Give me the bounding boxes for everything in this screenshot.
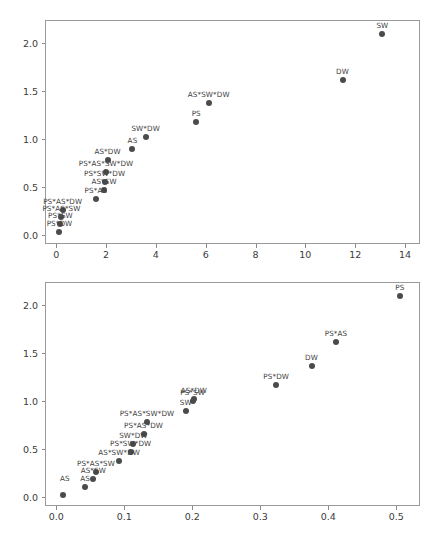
x-tick-mark bbox=[396, 506, 397, 510]
data-point-label: PS bbox=[192, 110, 201, 118]
x-tick-mark bbox=[156, 244, 157, 248]
data-point-label: SW bbox=[376, 22, 388, 30]
x-tick-label: 0.1 bbox=[117, 511, 132, 522]
data-point-label: DW bbox=[336, 68, 349, 76]
x-tick-mark bbox=[305, 244, 306, 248]
data-point-label: PS*DW bbox=[47, 220, 73, 228]
x-tick-label: 14 bbox=[399, 249, 411, 260]
x-tick-label: 6 bbox=[203, 249, 209, 260]
data-point-label: PS*SW bbox=[180, 389, 205, 397]
x-tick-mark bbox=[56, 244, 57, 248]
data-point bbox=[309, 363, 315, 369]
y-tick-label: 0.5 bbox=[23, 444, 38, 455]
y-tick-label: 2.0 bbox=[23, 38, 38, 49]
figure-scatter-pair: SWDWAS*SW*DWPSSW*DWASAS*DWPS*AS*SW*DWPS*… bbox=[0, 0, 430, 536]
y-tick-mark bbox=[42, 43, 46, 44]
x-tick-mark bbox=[260, 506, 261, 510]
data-point bbox=[129, 146, 135, 152]
y-tick-label: 0.0 bbox=[23, 230, 38, 241]
y-tick-label: 1.5 bbox=[23, 86, 38, 97]
data-point-label: PS bbox=[395, 284, 404, 292]
chart-panel-bottom: PSPS*ASDWPS*DWAS*DWPS*SWSWPS*AS*SW*DWPS*… bbox=[0, 268, 430, 536]
y-tick-mark bbox=[42, 187, 46, 188]
data-point-label: AS bbox=[60, 475, 70, 483]
x-tick-mark bbox=[206, 244, 207, 248]
data-point-label: PS*AS bbox=[325, 330, 347, 338]
data-point-label: PS*AS*SW*DW bbox=[79, 160, 134, 168]
data-point-label: AS bbox=[128, 137, 138, 145]
x-tick-mark bbox=[106, 244, 107, 248]
data-point bbox=[56, 229, 62, 235]
x-tick-mark bbox=[328, 506, 329, 510]
data-point bbox=[90, 476, 96, 482]
y-tick-label: 0.0 bbox=[23, 492, 38, 503]
x-tick-label: 0.4 bbox=[321, 511, 336, 522]
data-point-label: AS*SW*DW bbox=[188, 91, 230, 99]
x-tick-label: 0.3 bbox=[253, 511, 268, 522]
y-tick-mark bbox=[42, 235, 46, 236]
data-point bbox=[379, 31, 385, 37]
x-tick-mark bbox=[355, 244, 356, 248]
x-tick-label: 4 bbox=[153, 249, 159, 260]
x-tick-label: 0.2 bbox=[185, 511, 200, 522]
y-tick-mark bbox=[42, 91, 46, 92]
y-tick-mark bbox=[42, 139, 46, 140]
data-point-label: AS*SW bbox=[91, 178, 116, 186]
x-tick-label: 0 bbox=[53, 249, 59, 260]
data-point bbox=[116, 458, 122, 464]
data-point-label: PS*SW*DW bbox=[110, 440, 151, 448]
x-tick-label: 0.0 bbox=[49, 511, 64, 522]
data-point bbox=[82, 484, 88, 490]
data-point bbox=[60, 492, 66, 498]
x-tick-mark bbox=[405, 244, 406, 248]
y-tick-mark bbox=[42, 305, 46, 306]
data-point-label: SW bbox=[180, 399, 192, 407]
data-point-label: DW bbox=[305, 354, 318, 362]
data-point-label: AS*DW bbox=[94, 148, 120, 156]
y-tick-label: 0.5 bbox=[23, 182, 38, 193]
data-point bbox=[206, 100, 212, 106]
data-point bbox=[273, 382, 279, 388]
x-tick-mark bbox=[56, 506, 57, 510]
chart-panel-top: SWDWAS*SW*DWPSSW*DWASAS*DWPS*AS*SW*DWPS*… bbox=[0, 0, 430, 268]
data-point bbox=[143, 134, 149, 140]
x-tick-mark bbox=[124, 506, 125, 510]
data-point-label: PS*AS*SW*DW bbox=[120, 410, 175, 418]
data-point-label: PS*AS bbox=[85, 187, 107, 195]
y-tick-label: 1.5 bbox=[23, 348, 38, 359]
data-point bbox=[333, 339, 339, 345]
data-point-label: PS*AS*DW bbox=[124, 422, 163, 430]
plot-area-bottom: PSPS*ASDWPS*DWAS*DWPS*SWSWPS*AS*SW*DWPS*… bbox=[46, 283, 419, 505]
y-tick-mark bbox=[42, 401, 46, 402]
y-tick-mark bbox=[42, 353, 46, 354]
y-tick-mark bbox=[42, 497, 46, 498]
y-tick-mark bbox=[42, 449, 46, 450]
x-tick-label: 10 bbox=[299, 249, 311, 260]
plot-area-top: SWDWAS*SW*DWPSSW*DWASAS*DWPS*AS*SW*DWPS*… bbox=[46, 21, 419, 243]
data-point-label: SW*DW bbox=[131, 125, 159, 133]
data-point-label: AS bbox=[80, 475, 90, 483]
data-point bbox=[183, 408, 189, 414]
x-tick-label: 2 bbox=[103, 249, 109, 260]
x-tick-label: 8 bbox=[253, 249, 259, 260]
x-tick-mark bbox=[192, 506, 193, 510]
plot-frame-top: SWDWAS*SW*DWPSSW*DWASAS*DWPS*AS*SW*DWPS*… bbox=[45, 20, 420, 244]
data-point bbox=[340, 77, 346, 83]
data-point bbox=[397, 293, 403, 299]
data-point bbox=[93, 196, 99, 202]
data-point bbox=[193, 119, 199, 125]
plot-frame-bottom: PSPS*ASDWPS*DWAS*DWPS*SWSWPS*AS*SW*DWPS*… bbox=[45, 282, 420, 506]
y-tick-label: 2.0 bbox=[23, 300, 38, 311]
y-tick-label: 1.0 bbox=[23, 134, 38, 145]
x-tick-mark bbox=[256, 244, 257, 248]
x-tick-label: 0.5 bbox=[389, 511, 404, 522]
data-point-label: AS*SW*DW bbox=[98, 449, 140, 457]
y-tick-label: 1.0 bbox=[23, 396, 38, 407]
x-tick-label: 12 bbox=[349, 249, 361, 260]
data-point-label: PS*DW bbox=[263, 373, 289, 381]
